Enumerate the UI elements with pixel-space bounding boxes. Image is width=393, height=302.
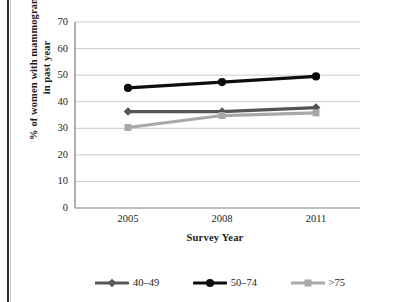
legend-label: 40–49 <box>133 278 159 289</box>
y-tick-label: 40 <box>42 97 68 108</box>
legend-item: 50–74 <box>193 276 257 290</box>
legend-label: 50–74 <box>231 278 257 289</box>
data-point-marker <box>108 279 117 288</box>
y-tick-label: 30 <box>42 123 68 134</box>
data-point-marker <box>206 279 214 287</box>
y-tick-label: 10 <box>42 176 68 187</box>
legend-label: >75 <box>329 278 345 289</box>
data-point-marker <box>124 107 133 116</box>
data-point-marker <box>125 124 132 131</box>
data-point-marker <box>312 72 320 80</box>
legend-swatch-diamond-icon <box>95 276 129 290</box>
legend-swatch-circle-icon <box>193 276 227 290</box>
y-tick-label: 50 <box>42 70 68 81</box>
legend-item: >75 <box>291 276 345 290</box>
chart-legend: 40–4950–74>75 <box>95 270 345 296</box>
legend-swatch-square-icon <box>291 276 325 290</box>
legend-item: 40–49 <box>95 276 159 290</box>
plot-area: 010203040506070 200520082011 <box>0 0 393 302</box>
y-tick-label: 70 <box>42 17 68 28</box>
data-point-marker <box>304 280 311 287</box>
mammogram-line-chart-figure: % of women with mammogram in past year 0… <box>0 0 393 302</box>
data-point-marker <box>218 78 226 86</box>
x-tick-label: 2011 <box>286 214 346 225</box>
y-tick-label: 20 <box>42 150 68 161</box>
data-point-marker <box>313 109 320 116</box>
x-axis-title: Survey Year <box>70 232 360 243</box>
y-tick-label: 60 <box>42 44 68 55</box>
y-tick-label: 0 <box>42 203 68 214</box>
data-point-marker <box>124 84 132 92</box>
data-point-marker <box>219 112 226 119</box>
x-tick-label: 2008 <box>192 214 252 225</box>
x-tick-label: 2005 <box>98 214 158 225</box>
